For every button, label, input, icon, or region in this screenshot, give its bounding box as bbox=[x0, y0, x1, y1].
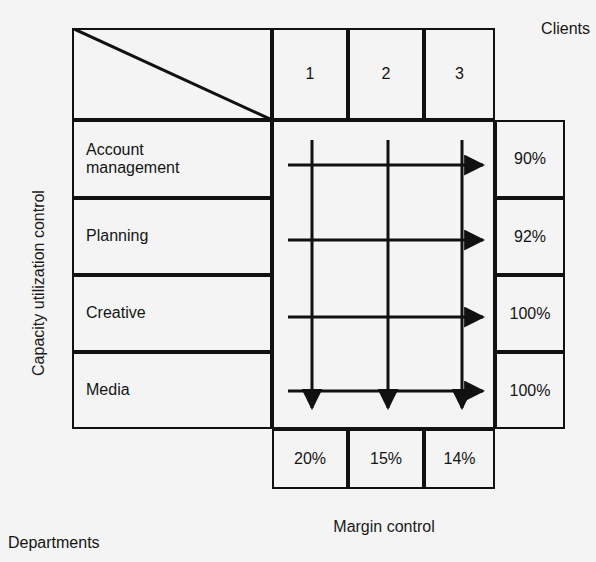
corner-rows-label: Departments bbox=[8, 534, 100, 552]
margin-value-client-1: 20% bbox=[272, 429, 348, 489]
margin-value-client-2: 15% bbox=[348, 429, 424, 489]
corner-columns-label: Clients bbox=[541, 20, 590, 38]
capacity-value-creative: 100% bbox=[495, 275, 565, 352]
client-header-2: 2 bbox=[348, 28, 424, 120]
corner-header-cell bbox=[72, 28, 272, 120]
margin-value-client-3: 14% bbox=[424, 429, 495, 489]
capacity-value-media: 100% bbox=[495, 352, 565, 429]
matrix-body bbox=[272, 120, 495, 429]
department-row-account-management: Accountmanagement bbox=[72, 120, 272, 198]
department-row-creative: Creative bbox=[72, 275, 272, 352]
client-header-1: 1 bbox=[272, 28, 348, 120]
capacity-value-planning: 92% bbox=[495, 198, 565, 275]
department-label: Creative bbox=[86, 304, 146, 322]
y-axis-label: Capacity utilization control bbox=[26, 118, 52, 448]
department-label: Accountmanagement bbox=[86, 141, 179, 178]
diagram-canvas: Capacity utilization control Margin cont… bbox=[0, 0, 596, 562]
client-header-3: 3 bbox=[424, 28, 495, 120]
capacity-value-account-management: 90% bbox=[495, 120, 565, 198]
department-row-media: Media bbox=[72, 352, 272, 429]
department-label: Planning bbox=[86, 227, 148, 245]
department-row-planning: Planning bbox=[72, 198, 272, 275]
x-axis-label: Margin control bbox=[272, 518, 496, 536]
department-label: Media bbox=[86, 381, 130, 399]
